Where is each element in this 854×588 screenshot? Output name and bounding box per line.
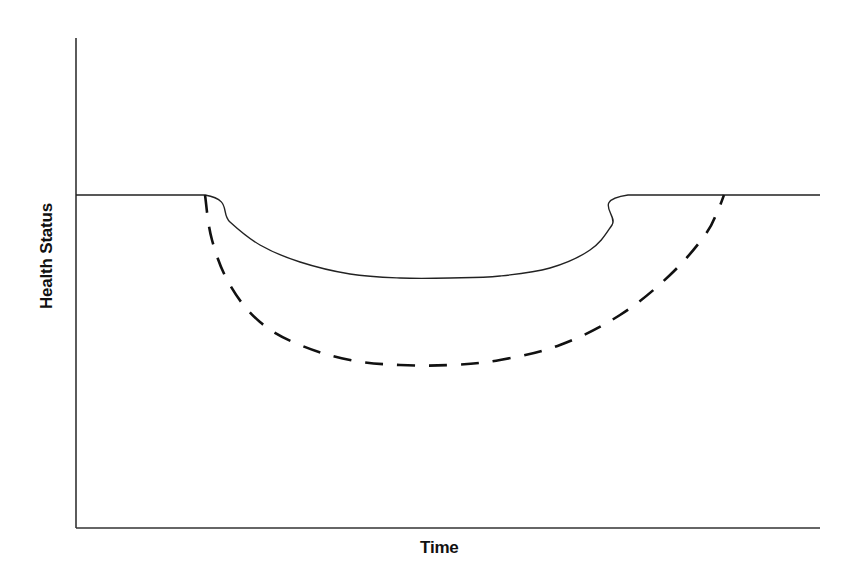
solid-curve bbox=[76, 195, 820, 278]
x-axis-label: Time bbox=[420, 538, 459, 558]
health-status-chart: Health Status Time bbox=[0, 0, 854, 588]
y-axis-label: Health Status bbox=[37, 203, 57, 309]
dashed-curve bbox=[205, 195, 724, 366]
chart-canvas bbox=[0, 0, 854, 588]
